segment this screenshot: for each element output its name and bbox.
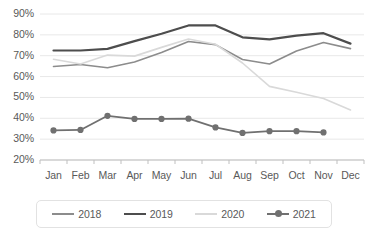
data-point-2021-Jan — [50, 127, 56, 133]
legend-line-icon — [52, 213, 74, 215]
x-tick-label-sep: Sep — [256, 169, 283, 181]
legend-line-icon — [195, 213, 217, 215]
legend-item-2020[interactable]: 2020 — [195, 208, 244, 220]
x-tick-label-nov: Nov — [310, 169, 337, 181]
y-tick-label: 70% — [0, 49, 34, 61]
x-tick-label-jun: Jun — [175, 169, 202, 181]
data-point-2021-May — [158, 116, 164, 122]
y-tick-label: 50% — [0, 90, 34, 102]
line-chart: 20%30%40%50%60%70%80%90% JanFebMarAprMay… — [0, 0, 371, 241]
data-point-2021-Jul — [212, 124, 218, 130]
y-tick-label: 60% — [0, 70, 34, 82]
data-point-2021-Apr — [131, 116, 137, 122]
legend-label: 2018 — [78, 208, 101, 220]
data-point-2021-Feb — [77, 127, 83, 133]
series-line-2019 — [54, 25, 351, 50]
y-tick-label: 40% — [0, 111, 34, 123]
data-point-2021-Aug — [239, 130, 245, 136]
data-point-2021-Jun — [185, 116, 191, 122]
legend-label: 2021 — [293, 208, 316, 220]
x-tick-label-may: May — [148, 169, 175, 181]
legend-line-icon — [124, 213, 146, 215]
x-tick-label-jan: Jan — [40, 169, 67, 181]
data-point-2021-Nov — [320, 129, 326, 135]
x-tick-label-dec: Dec — [337, 169, 364, 181]
legend-item-2019[interactable]: 2019 — [124, 208, 173, 220]
series-line-2018 — [54, 42, 351, 68]
legend-item-2018[interactable]: 2018 — [52, 208, 101, 220]
x-tick-label-apr: Apr — [121, 169, 148, 181]
y-tick-label: 30% — [0, 132, 34, 144]
data-point-2021-Sep — [266, 128, 272, 134]
data-point-2021-Oct — [293, 128, 299, 134]
x-tick-label-aug: Aug — [229, 169, 256, 181]
y-tick-label: 20% — [0, 153, 34, 165]
x-tick-label-oct: Oct — [283, 169, 310, 181]
legend-swatch-icon — [124, 209, 146, 219]
legend-swatch-icon — [267, 209, 289, 219]
legend-dot-icon — [275, 210, 282, 217]
x-tick-label-jul: Jul — [202, 169, 229, 181]
y-tick-label: 80% — [0, 28, 34, 40]
legend-swatch-icon — [195, 209, 217, 219]
legend-label: 2020 — [221, 208, 244, 220]
legend-item-2021[interactable]: 2021 — [267, 208, 316, 220]
legend-label: 2019 — [150, 208, 173, 220]
y-tick-label: 90% — [0, 7, 34, 19]
legend-swatch-icon — [52, 209, 74, 219]
x-tick-label-feb: Feb — [67, 169, 94, 181]
chart-legend: 2018201920202021 — [36, 200, 332, 228]
x-tick-label-mar: Mar — [94, 169, 121, 181]
data-point-2021-Mar — [104, 113, 110, 119]
